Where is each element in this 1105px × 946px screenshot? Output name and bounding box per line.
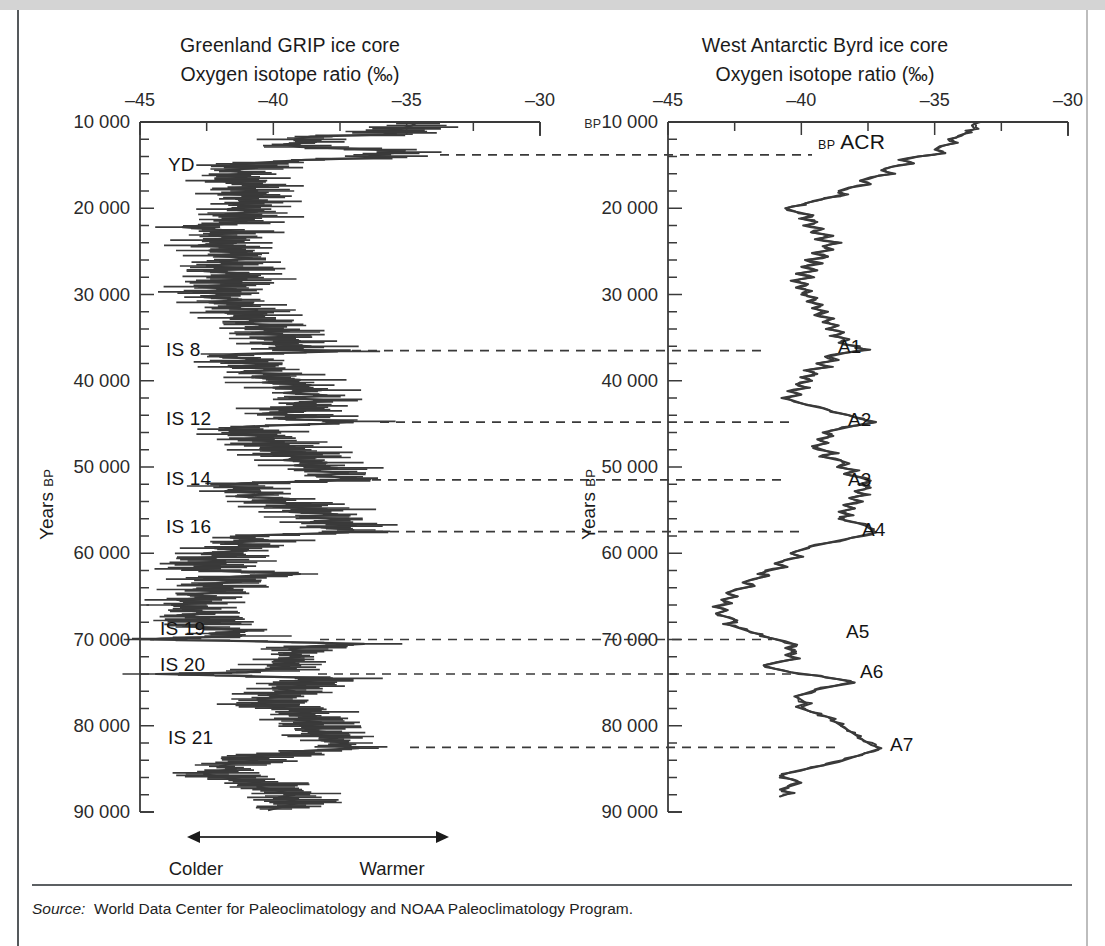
left-y-tick-2: 30 000 <box>20 284 130 306</box>
left-x-tick-0: –45 <box>125 90 155 111</box>
byrd-curve <box>713 122 981 797</box>
right-y-tick-2: 30 000 <box>548 284 658 306</box>
right-event-label-acr: BP ACR <box>818 130 885 154</box>
right-x-tick-1: –40 <box>786 90 816 111</box>
left-event-label-is-12: IS 12 <box>166 408 211 430</box>
correlation-lines <box>318 155 836 748</box>
right-x-tick-3: –30 <box>1053 90 1083 111</box>
source-divider <box>32 884 1072 886</box>
right-event-label-a1: A1 <box>838 336 862 358</box>
right-x-tick-2: –35 <box>920 90 950 111</box>
source-text: World Data Center for Paleoclimatology a… <box>94 900 633 917</box>
right-event-label-a4: A4 <box>862 519 886 541</box>
right-y-tick-5: 60 000 <box>548 542 658 564</box>
right-x-tick-0: –45 <box>653 90 683 111</box>
left-x-tick-1: –40 <box>258 90 288 111</box>
right-y-tick-1: 20 000 <box>548 197 658 219</box>
left-event-label-is-14: IS 14 <box>166 468 211 490</box>
colder-label: Colder <box>169 858 224 880</box>
warmer-label: Warmer <box>359 858 424 880</box>
right-y-tick-0: BP10 000 <box>548 111 658 133</box>
left-event-label-is-21: IS 21 <box>168 727 213 749</box>
right-y-axis-title: Years BP <box>578 469 600 540</box>
right-y-tick-7: 80 000 <box>548 715 658 737</box>
left-event-label-is-16: IS 16 <box>166 516 211 538</box>
source-prefix: Source: <box>32 900 85 917</box>
right-y-tick-8: 90 000 <box>548 801 658 823</box>
grip-curve <box>123 122 459 810</box>
left-y-axis-title-text: Years <box>36 487 57 540</box>
right-event-label-a3: A3 <box>848 469 872 491</box>
right-event-label-a2: A2 <box>848 409 872 431</box>
left-event-label-is-19: IS 19 <box>160 618 205 640</box>
right-y-axis-title-sup: BP <box>583 469 598 487</box>
left-event-label-is-20: IS 20 <box>160 654 205 676</box>
left-x-tick-3: –30 <box>525 90 555 111</box>
left-y-tick-5: 60 000 <box>20 542 130 564</box>
right-event-label-a6: A6 <box>860 661 884 683</box>
left-y-tick-7: 80 000 <box>20 715 130 737</box>
temperature-arrow <box>187 831 449 843</box>
left-y-tick-3: 40 000 <box>20 370 130 392</box>
left-y-tick-8: 90 000 <box>20 801 130 823</box>
left-y-axis-title: Years BP <box>36 469 58 540</box>
left-y-tick-1: 20 000 <box>20 197 130 219</box>
left-y-axis-title-sup: BP <box>41 469 56 487</box>
left-y-tick-6: 70 000 <box>20 629 130 651</box>
right-y-tick-3: 40 000 <box>548 370 658 392</box>
source-line: Source: World Data Center for Paleoclima… <box>32 900 633 918</box>
left-y-tick-0: 10 000 <box>20 111 130 133</box>
right-y-tick-6: 70 000 <box>548 629 658 651</box>
right-y-axis-title-text: Years <box>578 487 599 540</box>
right-y-tick-4: 50 000 <box>548 456 658 478</box>
right-event-label-a7: A7 <box>890 734 914 756</box>
left-event-label-yd: YD <box>168 154 195 176</box>
right-event-label-a5: A5 <box>846 621 870 643</box>
figure-page: Greenland GRIP ice core Oxygen isotope r… <box>0 0 1105 946</box>
left-event-label-is-8: IS 8 <box>166 339 201 361</box>
left-x-tick-2: –35 <box>392 90 422 111</box>
